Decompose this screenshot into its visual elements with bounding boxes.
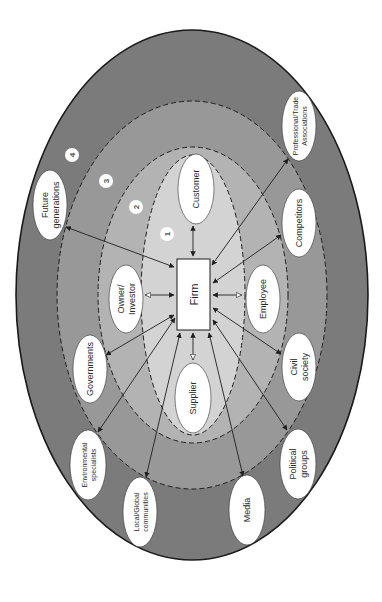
svg-text:Customer: Customer <box>191 169 201 208</box>
svg-text:specialists: specialists <box>90 448 98 481</box>
stakeholder-future-generations: Future generations <box>33 170 67 240</box>
stakeholder-competitors: Competitors <box>282 189 316 257</box>
stakeholder-political-groups: Political groups <box>280 429 316 499</box>
svg-text:Owner/: Owner/ <box>116 284 126 314</box>
svg-text:Environmental: Environmental <box>81 442 88 487</box>
firm-label: Firm <box>188 284 200 306</box>
stakeholder-local-global-communities: Local/Global communities <box>123 477 157 547</box>
svg-text:Media: Media <box>242 498 252 523</box>
stakeholder-supplier: Supplier <box>175 363 211 433</box>
svg-text:Local/Global: Local/Global <box>133 492 140 531</box>
svg-text:Employee: Employee <box>258 279 268 319</box>
svg-text:society: society <box>300 352 310 381</box>
stakeholder-diagram: 4 3 2 1 Firm Customer <box>0 0 382 602</box>
svg-text:Competitors: Competitors <box>294 198 304 247</box>
ring-badge-4: 4 <box>65 148 79 162</box>
stakeholder-civil-society: Civil society <box>282 333 316 401</box>
ring-badge-2: 2 <box>129 200 143 214</box>
svg-text:Civil: Civil <box>289 359 299 376</box>
svg-text:groups: groups <box>299 450 309 478</box>
svg-text:Associations: Associations <box>301 106 308 146</box>
firm-node: Firm <box>177 259 210 330</box>
ring-badge-1: 1 <box>160 227 174 241</box>
stakeholder-governments: Governments <box>73 335 107 403</box>
svg-text:Investor: Investor <box>127 283 137 315</box>
stakeholder-professional-trade-associations: Professional/Trade Associations <box>282 91 316 161</box>
stakeholder-owner-investor: Owner/ Investor <box>109 265 143 333</box>
stakeholder-customer: Customer <box>178 154 214 224</box>
svg-text:1: 1 <box>163 231 172 236</box>
svg-text:3: 3 <box>102 178 111 183</box>
stakeholder-employee: Employee <box>246 265 280 333</box>
svg-text:communities: communities <box>142 492 149 532</box>
svg-text:4: 4 <box>68 152 77 157</box>
ring-badge-3: 3 <box>99 174 113 188</box>
svg-text:Future: Future <box>40 192 50 218</box>
svg-text:Governments: Governments <box>85 341 95 396</box>
svg-text:2: 2 <box>132 204 141 209</box>
stakeholder-media: Media <box>229 475 265 545</box>
svg-text:Supplier: Supplier <box>188 381 198 414</box>
stakeholder-environmental-specialists: Environmental specialists <box>70 430 106 500</box>
svg-text:generations: generations <box>51 181 61 229</box>
svg-text:Political: Political <box>288 448 298 479</box>
svg-text:Professional/Trade: Professional/Trade <box>292 97 299 156</box>
